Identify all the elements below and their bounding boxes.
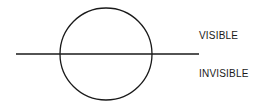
invisible-label: INVISIBLE [199,68,249,79]
visible-label: VISIBLE [199,30,238,41]
diagram-canvas [0,0,258,108]
